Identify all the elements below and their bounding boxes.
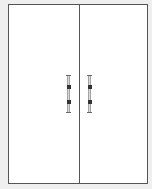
handle-cap xyxy=(66,112,71,113)
right-door-handle-icon xyxy=(88,75,91,113)
handle-cap xyxy=(87,112,92,113)
handle-cap xyxy=(66,75,71,76)
cabinet-frame xyxy=(8,4,148,184)
handle-cap xyxy=(87,75,92,76)
handle-band xyxy=(88,85,92,89)
handle-band xyxy=(67,85,71,89)
handle-band xyxy=(88,100,92,104)
left-door-handle-icon xyxy=(67,75,70,113)
handle-band xyxy=(67,100,71,104)
door-divider xyxy=(79,5,80,183)
